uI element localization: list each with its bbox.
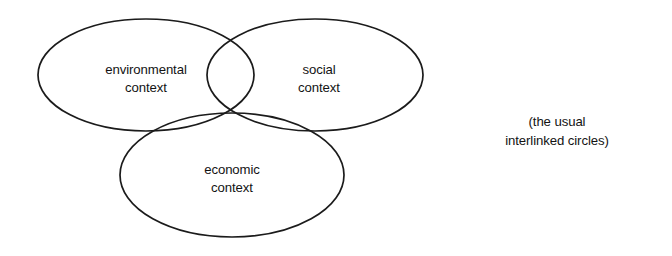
annotation-line-2: interlinked circles) <box>452 132 662 151</box>
label-economic-context: economic context <box>152 161 312 196</box>
label-social-line-1: social <box>256 61 382 79</box>
label-environmental-line-1: environmental <box>60 61 232 79</box>
label-economic-line-1: economic <box>152 161 312 179</box>
label-environmental-line-2: context <box>60 79 232 97</box>
annotation-note: (the usual interlinked circles) <box>452 113 662 150</box>
label-social-context: social context <box>256 61 382 96</box>
label-economic-line-2: context <box>152 179 312 197</box>
venn-diagram-figure: environmental context social context eco… <box>0 0 672 256</box>
annotation-line-1: (the usual <box>452 113 662 132</box>
label-environmental-context: environmental context <box>60 61 232 96</box>
label-social-line-2: context <box>256 79 382 97</box>
